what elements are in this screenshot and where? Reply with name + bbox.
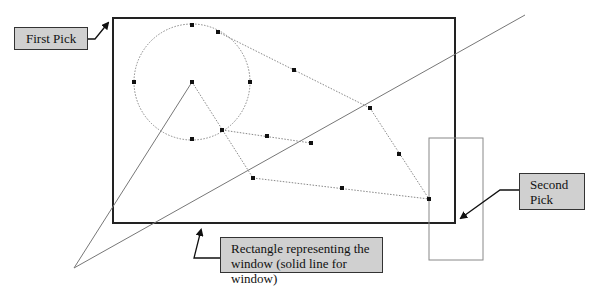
window-label-line2: window (solid line for window)	[231, 256, 382, 286]
grip-point	[248, 80, 252, 84]
grip-point	[220, 128, 224, 132]
window-label-leader	[194, 230, 220, 258]
grip-points	[132, 23, 431, 201]
first-pick-label: First Pick	[26, 31, 76, 46]
grip-point	[265, 134, 269, 138]
construction-line-to-center	[74, 82, 192, 268]
window-label-line1: Rectangle representing the	[231, 241, 382, 256]
window-rectangle-callout: Rectangle representing the window (solid…	[220, 237, 383, 273]
second-pick-label-line1: Second	[530, 177, 584, 192]
grip-point	[340, 186, 344, 190]
grip-point	[190, 137, 194, 141]
grip-point	[132, 80, 136, 84]
first-pick-leader	[88, 23, 108, 39]
grip-point	[190, 80, 194, 84]
first-pick-callout: First Pick	[14, 27, 88, 50]
grip-point	[190, 23, 194, 27]
window-rectangle	[113, 18, 455, 223]
second-pick-callout: Second Pick	[519, 173, 585, 210]
grip-point	[216, 30, 220, 34]
grip-point	[251, 176, 255, 180]
second-pick-leader	[461, 190, 519, 218]
grip-point	[427, 197, 431, 201]
grip-point	[397, 152, 401, 156]
grip-point	[309, 141, 313, 145]
grip-point	[368, 106, 372, 110]
second-pick-label-line2: Pick	[530, 192, 584, 207]
grip-point	[292, 68, 296, 72]
dotted-polylines	[192, 32, 429, 199]
